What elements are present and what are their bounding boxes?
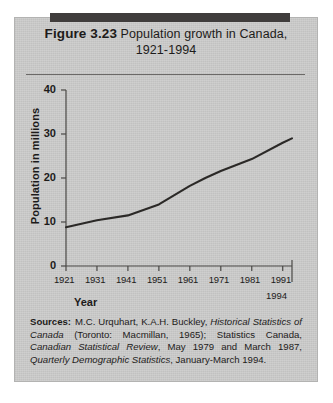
x-tick-label: 1971 [209,274,229,285]
x-tick-label: 1921 [54,274,74,285]
x-tick-label: 1961 [178,274,198,285]
y-tick-label: 10 [30,215,56,227]
x-axis-label: Year [74,296,97,308]
figure-year-range: 1921-1994 [22,42,310,58]
y-tick-label: 40 [30,83,56,95]
figure-caption: Population growth in Canada, [121,27,288,41]
x-tick-label: 1951 [147,274,167,285]
figure-number: Figure 3.23 [45,26,117,41]
x-tick-label: 1931 [85,274,105,285]
x-axis-end-label: 1994 [266,290,287,301]
figure-title: Figure 3.23 Population growth in Canada,… [22,26,310,58]
sources-block: Sources: M.C. Urquhart, K.A.H. Buckley, … [30,316,302,366]
title-divider [26,74,305,75]
y-tick-label: 0 [30,259,56,271]
x-tick-label: 1981 [240,274,260,285]
figure-header-bar [50,13,290,22]
y-tick-label: 20 [30,171,56,183]
x-tick-label: 1991 [271,274,291,285]
x-tick-label: 1941 [116,274,136,285]
y-tick-label: 30 [30,127,56,139]
sources-label: Sources: [30,316,71,329]
